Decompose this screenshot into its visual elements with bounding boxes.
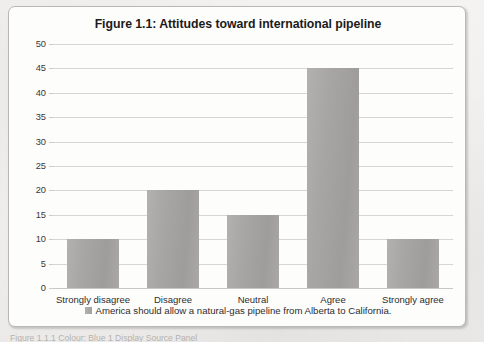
gridline-50 (53, 44, 453, 45)
y-axis-tick-label: 25 (36, 161, 46, 171)
chart-title: Figure 1.1: Attitudes toward internation… (9, 17, 467, 31)
x-axis-category-label: Strongly agree (382, 294, 444, 305)
y-axis-tick-mark-30 (49, 142, 53, 143)
gridline-0 (53, 288, 453, 289)
y-axis-tick-label: 40 (36, 88, 46, 98)
y-axis-tick-label: 15 (36, 210, 46, 220)
y-axis-tick-mark-15 (49, 215, 53, 216)
y-axis-tick-mark-35 (49, 117, 53, 118)
x-axis-category-label: Agree (320, 294, 345, 305)
y-axis-tick-label: 0 (41, 283, 46, 293)
bar-neutral[interactable] (227, 215, 279, 288)
gridline-30 (53, 142, 453, 143)
plot-area: 05101520253035404550Strongly disagreeDis… (53, 44, 453, 288)
gridline-35 (53, 117, 453, 118)
y-axis-tick-mark-0 (49, 288, 53, 289)
y-axis-tick-mark-40 (49, 93, 53, 94)
x-axis-category-label: Disagree (154, 294, 192, 305)
x-axis-category-label: Strongly disagree (56, 294, 130, 305)
y-axis-tick-mark-45 (49, 68, 53, 69)
y-axis-tick-label: 35 (36, 112, 46, 122)
page-caption-cutoff: Figure 1.1.1 Colour: Blue 1 Display Sour… (10, 333, 340, 342)
gridline-45 (53, 68, 453, 69)
y-axis-tick-mark-25 (49, 166, 53, 167)
bar-strongly-agree[interactable] (387, 239, 439, 288)
y-axis-tick-label: 20 (36, 185, 46, 195)
bar-agree[interactable] (307, 68, 359, 288)
legend-label: America should allow a natural-gas pipel… (96, 305, 392, 316)
y-axis-tick-label: 45 (36, 63, 46, 73)
y-axis-tick-mark-10 (49, 239, 53, 240)
gridline-40 (53, 93, 453, 94)
bar-strongly-disagree[interactable] (67, 239, 119, 288)
chart-legend: America should allow a natural-gas pipel… (9, 305, 467, 316)
bar-disagree[interactable] (147, 190, 199, 288)
y-axis-tick-label: 5 (41, 259, 46, 269)
y-axis-tick-label: 50 (36, 39, 46, 49)
y-axis-tick-label: 30 (36, 137, 46, 147)
gridline-25 (53, 166, 453, 167)
y-axis-tick-mark-50 (49, 44, 53, 45)
gridline-20 (53, 190, 453, 191)
y-axis-tick-mark-5 (49, 264, 53, 265)
y-axis-tick-mark-20 (49, 190, 53, 191)
y-axis-tick-label: 10 (36, 234, 46, 244)
x-axis-category-label: Neutral (238, 294, 269, 305)
chart-container: Figure 1.1: Attitudes toward internation… (8, 6, 466, 327)
legend-color-swatch (85, 307, 92, 314)
